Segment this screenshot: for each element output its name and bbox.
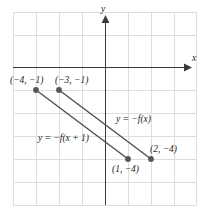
x-axis-label: x bbox=[191, 53, 197, 63]
label-point-neg4-neg1: (−4, −1) bbox=[10, 75, 43, 86]
x-axis bbox=[13, 64, 192, 72]
grid-horizontal-lines bbox=[13, 13, 196, 206]
label-point-1-neg4: (1, −4) bbox=[112, 164, 139, 175]
y-axis bbox=[102, 15, 110, 205]
annotation-equation-neg-f-x-plus-1: y = −f(x + 1) bbox=[37, 133, 89, 144]
annotation-equation-neg-f-x: y = −f(x) bbox=[115, 114, 151, 125]
y-axis-label: y bbox=[100, 4, 106, 14]
label-point-neg3-neg1: (−3, −1) bbox=[55, 75, 88, 86]
label-point-2-neg4: (2, −4) bbox=[150, 144, 177, 155]
point-2-neg4 bbox=[148, 156, 154, 162]
point-neg4-neg1 bbox=[33, 87, 39, 93]
graph-figure: x y (−4, −1) (−3, −1) (1, −4) (2, −4) y … bbox=[0, 0, 211, 218]
x-axis-arrowhead bbox=[184, 64, 192, 72]
point-neg3-neg1 bbox=[56, 87, 62, 93]
point-1-neg4 bbox=[125, 156, 131, 162]
y-axis-arrowhead bbox=[102, 15, 110, 23]
coordinate-plane-svg: x y (−4, −1) (−3, −1) (1, −4) (2, −4) y … bbox=[0, 0, 211, 218]
